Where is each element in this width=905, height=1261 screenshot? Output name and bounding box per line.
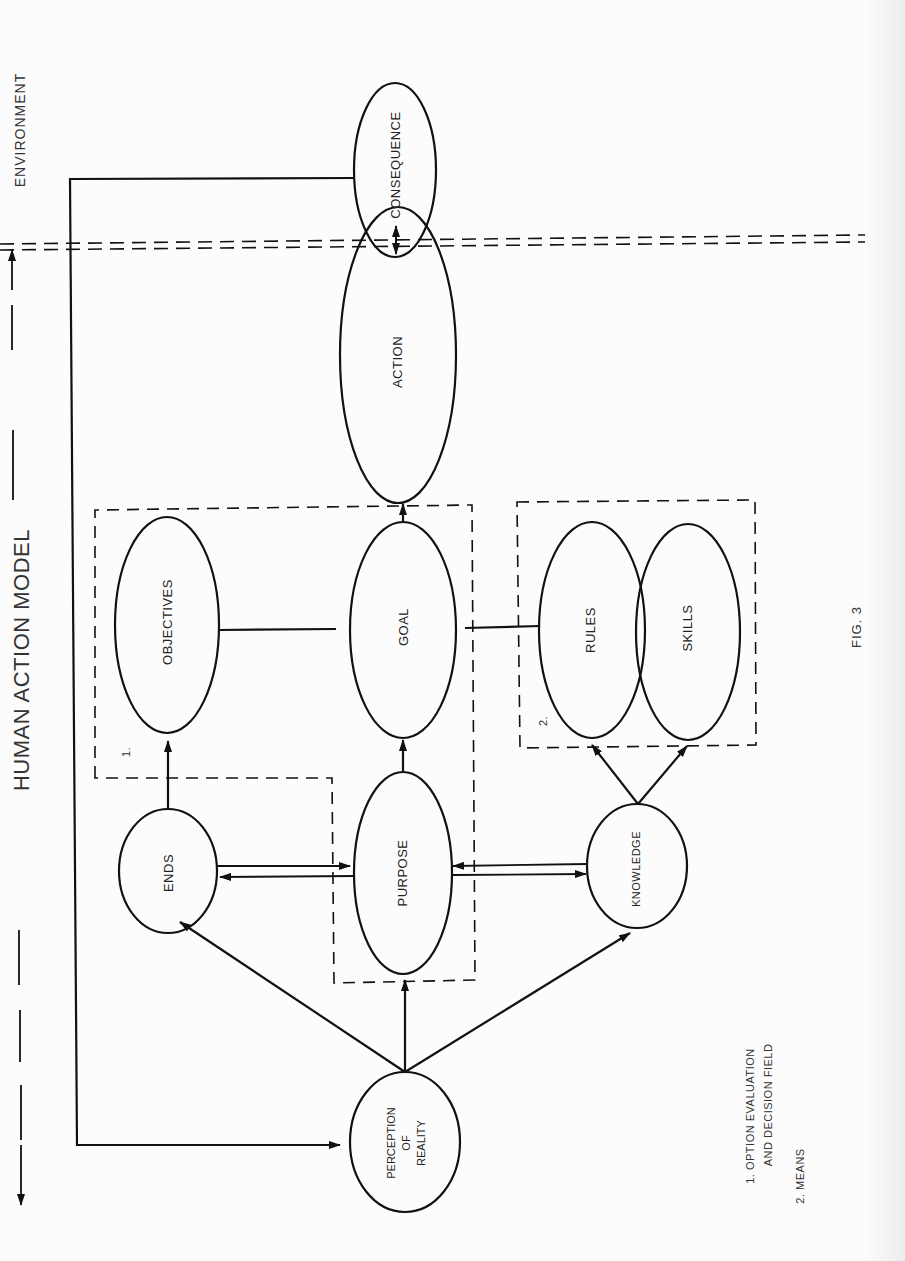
edge-knowledge-purpose xyxy=(453,864,587,866)
edge-purpose-knowledge xyxy=(453,874,586,875)
page-title: HUMAN ACTION MODEL xyxy=(9,529,35,791)
legend-item-1-line1: 1. OPTION EVALUATION xyxy=(744,1048,756,1184)
feedback-line xyxy=(70,178,354,1145)
perception-line2: OF xyxy=(399,1107,414,1179)
purpose-label: PURPOSE xyxy=(395,839,410,906)
perception-label: PERCEPTION OF REALITY xyxy=(384,1107,429,1179)
edge-knowledge-skills xyxy=(638,746,687,804)
edge-goal-rules xyxy=(465,626,540,628)
skills-label: SKILLS xyxy=(680,604,695,651)
legend-item-2: 2. MEANS xyxy=(794,1148,806,1203)
region-1-marker: 1. xyxy=(120,747,132,757)
legend-item-1-line2: AND DECISION FIELD xyxy=(762,1044,774,1167)
perception-line1: PERCEPTION xyxy=(384,1107,399,1179)
edge-knowledge-rules xyxy=(592,745,638,804)
ends-label: ENDS xyxy=(161,854,176,892)
edge-purpose-ends xyxy=(220,876,355,877)
edge-perception-knowledge xyxy=(405,933,630,1072)
objectives-label: OBJECTIVES xyxy=(160,579,175,665)
edge-perception-ends xyxy=(180,922,405,1072)
consequence-label: CONSEQUENCE xyxy=(388,111,403,218)
knowledge-label: KNOWLEDGE xyxy=(630,831,642,907)
environment-label: ENVIRONMENT xyxy=(12,73,28,187)
edge-objectives-goal xyxy=(219,629,336,630)
perception-line3: REALITY xyxy=(414,1107,429,1179)
region-1-option-evaluation-field xyxy=(95,505,475,983)
figure-label: FIG. 3 xyxy=(849,606,864,648)
region-2-marker: 2. xyxy=(537,716,549,726)
rules-label: RULES xyxy=(583,607,598,653)
action-label: ACTION xyxy=(390,336,405,388)
goal-label: GOAL xyxy=(396,608,411,646)
